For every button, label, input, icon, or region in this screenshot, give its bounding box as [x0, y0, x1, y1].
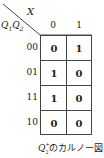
column-variable-label: X [27, 6, 34, 17]
cell-01-1: 0 [66, 61, 92, 86]
cell-10-1: 0 [66, 111, 92, 136]
row-header-11: 11 [14, 92, 38, 102]
row-header-00: 00 [14, 42, 38, 52]
column-header-1: 1 [66, 20, 92, 30]
cell-10-0: 0 [41, 111, 67, 136]
cell-00-1: 1 [66, 36, 92, 61]
cell-11-0: 1 [41, 86, 67, 111]
row-header-01: 01 [14, 67, 38, 77]
cell-11-1: 0 [66, 86, 92, 111]
column-header-0: 0 [40, 20, 66, 30]
kmap-grid: 0 1 1 0 1 0 0 0 [40, 35, 92, 135]
row-variable-label: Q1Q2 [1, 20, 23, 32]
cell-01-0: 1 [41, 61, 67, 86]
figure-caption: Q+2のカルノー図 [38, 141, 103, 155]
caption-text: のカルノー図 [49, 143, 103, 153]
cell-00-0: 0 [41, 36, 67, 61]
row-header-10: 10 [14, 117, 38, 127]
